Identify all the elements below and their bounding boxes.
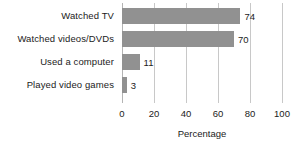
category-label-watched-tv: Watched TV [0, 10, 114, 21]
x-tick-100: 100 [274, 108, 290, 120]
bar-chart: Watched TV Watched videos/DVDs Used a co… [0, 0, 299, 158]
bar-watched-tv [122, 8, 240, 24]
gridline-100 [282, 3, 283, 103]
bar-value-watched-videos-dvds: 70 [238, 34, 249, 45]
bar-value-watched-tv: 74 [244, 11, 255, 22]
category-axis-labels: Watched TV Watched videos/DVDs Used a co… [0, 3, 118, 103]
bar-played-video-games [122, 77, 127, 93]
bar-value-used-a-computer: 11 [144, 57, 154, 68]
x-axis-tick-labels: 0 20 40 60 80 100 [0, 108, 299, 122]
x-tick-80: 80 [245, 108, 256, 120]
bar-watched-videos-dvds [122, 31, 234, 47]
plot-area: 74 70 11 3 [122, 3, 282, 103]
x-tick-40: 40 [181, 108, 192, 120]
bar-value-played-video-games: 3 [131, 80, 136, 91]
category-label-used-a-computer: Used a computer [0, 56, 114, 67]
category-label-watched-videos-dvds: Watched videos/DVDs [0, 33, 114, 44]
x-tick-0: 0 [119, 108, 124, 120]
x-tick-20: 20 [149, 108, 160, 120]
x-tick-60: 60 [213, 108, 224, 120]
x-axis-title: Percentage [122, 128, 282, 140]
bar-used-a-computer [122, 54, 140, 70]
category-label-played-video-games: Played video games [0, 79, 114, 90]
